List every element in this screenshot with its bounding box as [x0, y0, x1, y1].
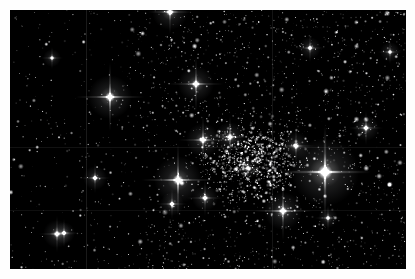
star-field-image — [10, 10, 406, 269]
star-field-canvas — [10, 10, 406, 269]
frame-border-right — [406, 0, 415, 279]
photo-frame: open star cluster in dense Milky Way sta… — [0, 0, 415, 279]
image-subject-label: open star cluster in dense Milky Way sta… — [0, 0, 1, 1]
scene-description: Dense white star field on black sky. A r… — [0, 0, 1, 1]
frame-border-bottom — [0, 269, 415, 279]
frame-border-top — [0, 0, 415, 10]
frame-border-left — [0, 0, 10, 279]
